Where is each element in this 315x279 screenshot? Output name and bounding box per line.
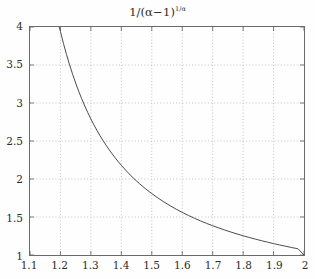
title-numerator: 1	[129, 5, 136, 19]
y-tick-label: 3	[0, 97, 23, 109]
y-tick-label: 1.5	[0, 212, 23, 224]
x-tick-label: 1.1	[21, 259, 38, 271]
title-exponent: 1/α	[175, 5, 186, 13]
x-tick-label: 1.3	[82, 259, 99, 271]
gridlines	[30, 27, 304, 255]
chart-title: 1/(α−1)1/α	[0, 5, 315, 19]
plot-canvas	[30, 27, 304, 255]
data-curve	[59, 27, 304, 255]
x-tick-label: 2	[302, 259, 309, 271]
x-tick-label: 1.9	[266, 259, 283, 271]
y-tick-label: 3.5	[0, 58, 23, 70]
plot-area	[29, 26, 305, 256]
title-alpha-symbol: α	[145, 5, 153, 19]
chart-figure: 1/(α−1)1/α 11.522.533.54 1.11.21.31.41.5…	[0, 0, 315, 279]
y-tick-label: 1	[0, 250, 23, 262]
y-tick-label: 2.5	[0, 135, 23, 147]
y-tick-label: 2	[0, 173, 23, 185]
title-minus-one: −1	[153, 5, 170, 19]
x-tick-label: 1.5	[143, 259, 160, 271]
x-tick-label: 1.6	[174, 259, 191, 271]
x-tick-label: 1.2	[51, 259, 68, 271]
x-tick-label: 1.7	[205, 259, 222, 271]
x-tick-label: 1.4	[113, 259, 130, 271]
x-tick-label: 1.8	[235, 259, 252, 271]
curve-path	[59, 27, 304, 255]
y-tick-label: 4	[0, 20, 23, 32]
